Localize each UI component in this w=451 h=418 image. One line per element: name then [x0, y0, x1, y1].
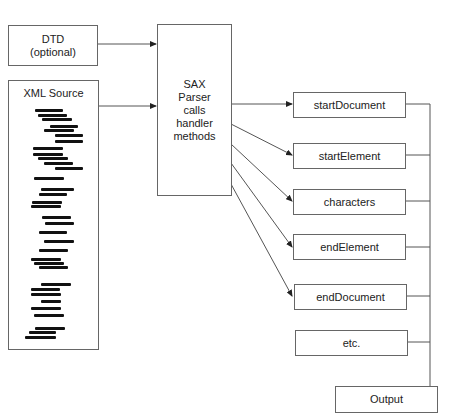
parser-text-line: methods: [173, 130, 215, 143]
parser-to-startelement-arrow: [231, 124, 292, 155]
parser-to-endelement-arrow: [231, 163, 292, 247]
xml-source-title: XML Source: [9, 87, 98, 100]
output-box: Output: [335, 386, 438, 413]
dtd-label: DTD: [42, 33, 65, 46]
xml-source-box: XML Source: [8, 80, 99, 350]
parser-text-line: Parser: [178, 91, 210, 104]
handler-label: endElement: [320, 241, 379, 254]
sax-parser-box: SAX Parser calls handler methods: [157, 24, 232, 196]
parser-to-characters-arrow: [231, 144, 292, 201]
handler-box-characters: characters: [293, 189, 406, 215]
handler-label: characters: [324, 196, 375, 209]
handler-box-enddocument: endDocument: [294, 284, 407, 310]
handler-label: startDocument: [314, 99, 386, 112]
handler-label: startElement: [319, 150, 381, 163]
output-label: Output: [370, 393, 403, 406]
handler-box-startelement: startElement: [293, 143, 406, 169]
handler-box-etc: etc.: [295, 330, 408, 356]
handler-label: endDocument: [316, 291, 385, 304]
dtd-optional-label: (optional): [30, 46, 76, 59]
handler-label: etc.: [343, 337, 361, 350]
parser-to-enddocument-arrow: [231, 184, 292, 296]
handler-box-endelement: endElement: [293, 234, 406, 260]
parser-text-line: handler: [176, 117, 213, 130]
dtd-box: DTD (optional): [8, 25, 98, 66]
handler-box-startdocument: startDocument: [293, 92, 406, 118]
parser-text-line: calls: [183, 104, 205, 117]
parser-text-line: SAX: [183, 78, 205, 91]
